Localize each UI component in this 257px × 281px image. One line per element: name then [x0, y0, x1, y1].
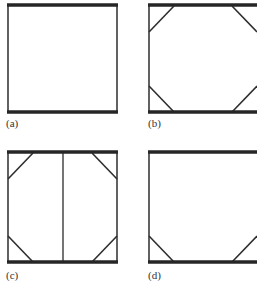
- panel-c-braced-frame-with-center-post: [7, 152, 118, 262]
- brace-top-left: [8, 153, 33, 179]
- brace-bottom-right: [232, 236, 257, 262]
- panel-d-bottom-braced-frame: [148, 152, 257, 262]
- panel-label-b: (b): [148, 118, 161, 129]
- brace-bottom-right: [92, 236, 117, 262]
- brace-top-right: [92, 153, 117, 179]
- brace-bottom-right: [232, 86, 257, 112]
- brace-top-left: [149, 6, 174, 32]
- brace-top-right: [232, 6, 257, 32]
- brace-bottom-left: [149, 86, 174, 112]
- panel-b-four-corner-braced-frame: [148, 5, 257, 112]
- brace-bottom-left: [149, 236, 174, 262]
- panel-label-a: (a): [6, 118, 18, 129]
- brace-bottom-left: [8, 236, 33, 262]
- panel-label-c: (c): [6, 270, 18, 281]
- panel-a-unbraced-frame: [7, 5, 118, 112]
- panel-label-d: (d): [148, 270, 161, 281]
